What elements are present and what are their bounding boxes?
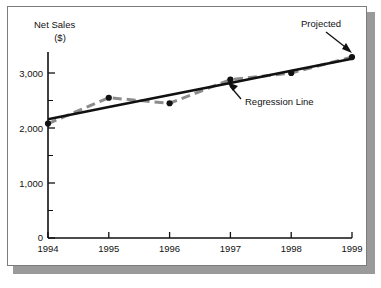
net-sales-line-chart: 0 1,000 2,000 3,000 Net Sales ($) 1994 1… bbox=[8, 7, 366, 265]
annotation-regression: Regression Line bbox=[227, 82, 314, 107]
annotation-projected: Projected bbox=[301, 18, 352, 53]
figure-root: 0 1,000 2,000 3,000 Net Sales ($) 1994 1… bbox=[0, 0, 381, 288]
x-tick-label-1998: 1998 bbox=[281, 243, 302, 254]
x-axis-ticks bbox=[48, 232, 352, 238]
chart-panel: 0 1,000 2,000 3,000 Net Sales ($) 1994 1… bbox=[7, 6, 367, 266]
y-axis-title-line2: ($) bbox=[54, 32, 66, 43]
y-tick-label-3000: 3,000 bbox=[19, 68, 43, 79]
annotation-projected-arrow-head bbox=[342, 43, 352, 53]
data-point-1999 bbox=[349, 54, 355, 60]
annotation-projected-label: Projected bbox=[301, 18, 341, 29]
y-tick-label-2000: 2,000 bbox=[19, 123, 43, 134]
data-point-1995 bbox=[106, 95, 112, 101]
y-tick-label-1000: 1,000 bbox=[19, 178, 43, 189]
annotation-regression-label: Regression Line bbox=[245, 96, 314, 107]
data-point-1996 bbox=[167, 100, 173, 106]
data-point-1998 bbox=[288, 70, 294, 76]
x-tick-label-1999: 1999 bbox=[341, 243, 362, 254]
data-point-1997 bbox=[227, 77, 233, 83]
y-tick-label-0: 0 bbox=[38, 232, 43, 243]
x-tick-label-1994: 1994 bbox=[37, 243, 58, 254]
y-axis-title-line1: Net Sales bbox=[34, 19, 75, 30]
x-tick-label-1997: 1997 bbox=[220, 243, 241, 254]
x-tick-label-1995: 1995 bbox=[98, 243, 119, 254]
data-point-1994 bbox=[45, 121, 51, 127]
x-tick-label-1996: 1996 bbox=[159, 243, 180, 254]
series-regression-line bbox=[48, 59, 352, 119]
